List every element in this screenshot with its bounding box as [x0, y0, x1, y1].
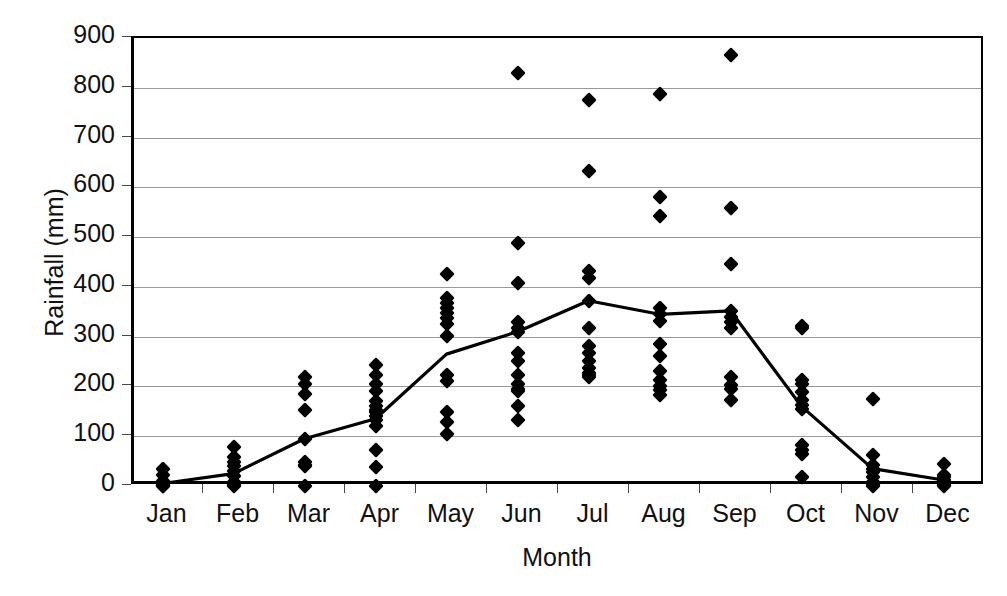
x-tick-mark — [415, 484, 416, 493]
x-tick-label-nov: Nov — [854, 499, 898, 528]
x-tick-label-oct: Oct — [786, 499, 825, 528]
gridline — [134, 88, 981, 89]
x-tick-label-feb: Feb — [216, 499, 259, 528]
x-tick-mark — [344, 484, 345, 493]
scatter-point — [368, 442, 384, 458]
scatter-point — [652, 190, 668, 206]
x-tick-label-may: May — [427, 499, 474, 528]
y-tick-label: 500 — [73, 219, 115, 248]
x-tick-label-sep: Sep — [712, 499, 756, 528]
scatter-point — [865, 391, 881, 407]
x-tick-label-dec: Dec — [925, 499, 969, 528]
mean-rainfall-line — [134, 38, 986, 486]
y-tick-label: 900 — [73, 20, 115, 49]
scatter-point — [581, 163, 597, 179]
scatter-point — [297, 431, 313, 447]
gridline — [134, 138, 981, 139]
y-tick-label: 0 — [101, 468, 115, 497]
scatter-point — [439, 267, 455, 283]
gridline — [134, 386, 981, 387]
scatter-point — [652, 348, 668, 364]
gridline — [134, 337, 981, 338]
y-tick-label: 100 — [73, 418, 115, 447]
x-axis-title: Month — [131, 543, 983, 572]
x-tick-mark — [841, 484, 842, 493]
scatter-point — [581, 92, 597, 108]
gridline — [134, 287, 981, 288]
scatter-point — [652, 208, 668, 224]
y-tick-label: 800 — [73, 70, 115, 99]
scatter-point — [510, 65, 526, 81]
scatter-point — [510, 275, 526, 291]
y-tick-mark — [122, 484, 131, 485]
scatter-point — [368, 459, 384, 475]
gridline — [134, 436, 981, 437]
y-tick-label: 200 — [73, 368, 115, 397]
x-tick-label-jan: Jan — [146, 499, 186, 528]
x-tick-label-jun: Jun — [501, 499, 541, 528]
y-tick-mark — [122, 335, 131, 336]
y-tick-mark — [122, 434, 131, 435]
scatter-point — [723, 200, 739, 216]
x-tick-mark — [486, 484, 487, 493]
x-tick-mark — [628, 484, 629, 493]
x-tick-label-jul: Jul — [577, 499, 609, 528]
x-tick-label-aug: Aug — [641, 499, 685, 528]
scatter-point — [439, 426, 455, 442]
scatter-point — [510, 413, 526, 429]
y-tick-label: 700 — [73, 120, 115, 149]
scatter-point — [581, 320, 597, 336]
y-tick-mark — [122, 136, 131, 137]
x-tick-mark — [912, 484, 913, 493]
scatter-point — [368, 478, 384, 494]
scatter-point — [581, 293, 597, 309]
scatter-point — [723, 48, 739, 64]
x-tick-label-apr: Apr — [360, 499, 399, 528]
y-tick-label: 600 — [73, 169, 115, 198]
scatter-point — [723, 393, 739, 409]
x-tick-mark — [557, 484, 558, 493]
scatter-point — [794, 469, 810, 485]
plot-area — [131, 36, 983, 484]
scatter-point — [439, 328, 455, 344]
y-tick-mark — [122, 235, 131, 236]
x-tick-label-mar: Mar — [287, 499, 330, 528]
x-tick-mark — [202, 484, 203, 493]
y-tick-mark — [122, 185, 131, 186]
y-tick-label: 300 — [73, 319, 115, 348]
y-axis-title: Rainfall (mm) — [40, 113, 69, 413]
x-tick-mark — [770, 484, 771, 493]
y-tick-mark — [122, 384, 131, 385]
scatter-point — [723, 257, 739, 273]
scatter-point — [297, 386, 313, 402]
scatter-point — [297, 478, 313, 494]
rainfall-scatter-chart: Rainfall (mm) Month 01002003004005006007… — [0, 0, 1007, 596]
scatter-point — [297, 403, 313, 419]
x-tick-mark — [273, 484, 274, 493]
y-tick-label: 400 — [73, 269, 115, 298]
y-tick-mark — [122, 36, 131, 37]
gridline — [134, 237, 981, 238]
y-tick-mark — [122, 285, 131, 286]
y-tick-mark — [122, 86, 131, 87]
x-tick-mark — [699, 484, 700, 493]
gridline — [134, 187, 981, 188]
